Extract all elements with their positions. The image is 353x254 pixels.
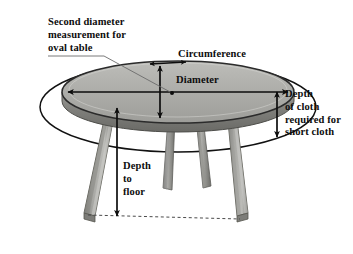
label-depth-of-cloth: Depth of cloth required for short cloth xyxy=(285,88,341,139)
label-circumference: Circumference xyxy=(178,48,246,61)
diagram-canvas: Second diameter measurement for oval tab… xyxy=(0,0,353,254)
label-diameter: Diameter xyxy=(176,74,219,87)
table-leg-front-left xyxy=(84,120,113,222)
label-second-diameter: Second diameter measurement for oval tab… xyxy=(48,16,126,54)
table-leg-front-right xyxy=(228,120,248,222)
floor-dashed-line xyxy=(88,215,240,219)
label-depth-to-floor: Depth to floor xyxy=(123,160,151,198)
table-legs xyxy=(84,118,248,222)
